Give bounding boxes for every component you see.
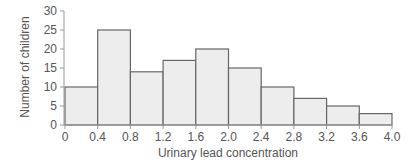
y-tick-label: 5 — [50, 99, 57, 113]
y-tick-label: 20 — [44, 42, 58, 56]
histogram-bar — [261, 87, 294, 125]
histogram-chart: 051015202530 00.40.81.21.62.02.42.83.23.… — [0, 0, 417, 167]
y-tick-label: 15 — [44, 61, 58, 75]
y-axis: 051015202530 — [44, 4, 64, 132]
y-tick-label: 10 — [44, 80, 58, 94]
x-tick-label: 1.6 — [187, 130, 204, 144]
x-tick-label: 2.4 — [253, 130, 270, 144]
histogram-bar — [359, 114, 392, 125]
y-tick-label: 25 — [44, 23, 58, 37]
x-tick-label: 2.0 — [220, 130, 237, 144]
x-axis: 00.40.81.21.62.02.42.83.23.64.0 — [62, 125, 401, 144]
x-tick-label: 0.8 — [122, 130, 139, 144]
histogram-bar — [65, 87, 98, 125]
bars-group — [65, 30, 392, 125]
histogram-bar — [98, 30, 131, 125]
x-tick-label: 3.2 — [318, 130, 335, 144]
y-tick-label: 0 — [50, 118, 57, 132]
x-tick-label: 0.4 — [89, 130, 106, 144]
histogram-bar — [229, 68, 262, 125]
x-tick-label: 3.6 — [351, 130, 368, 144]
histogram-bar — [294, 98, 327, 125]
histogram-bar — [130, 72, 163, 125]
y-axis-label: Number of children — [18, 16, 32, 117]
histogram-bar — [163, 60, 196, 125]
x-axis-label: Urinary lead concentration — [158, 146, 298, 160]
y-tick-label: 30 — [44, 4, 58, 18]
x-tick-label: 0 — [62, 130, 69, 144]
x-tick-label: 2.8 — [286, 130, 303, 144]
x-tick-label: 1.2 — [155, 130, 172, 144]
histogram-bar — [327, 106, 360, 125]
x-tick-label: 4.0 — [384, 130, 401, 144]
histogram-bar — [196, 49, 229, 125]
chart-canvas: 051015202530 00.40.81.21.62.02.42.83.23.… — [0, 0, 417, 167]
